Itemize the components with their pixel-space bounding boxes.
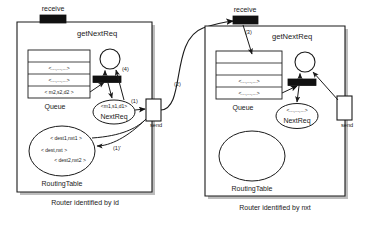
left-send-label: send [150, 123, 162, 129]
right-queue-row-3: <...,...,...> [238, 91, 259, 96]
diagram-canvas: receive getNextReq <...,...,...> <...,..… [0, 0, 365, 235]
left-transition-bar [93, 76, 121, 83]
left-queue-row-1: <...,...,...> [48, 66, 69, 71]
left-routing-entry-2: < dest,nxt > [41, 148, 67, 153]
left-receive-port[interactable] [40, 15, 66, 23]
left-getnextreq-place [100, 49, 120, 69]
left-send-port[interactable] [146, 99, 161, 121]
left-nextreq-token: <m1,s1,d1> [101, 104, 127, 109]
left-queue-label: Queue [44, 103, 65, 110]
left-receive-label: receive [42, 5, 65, 12]
left-queue-row-2: <...,...,...> [48, 78, 69, 83]
right-arc-label-3: (3) [245, 30, 252, 36]
left-getnextreq-label: getNextReq [77, 30, 117, 38]
right-routingtable-place [219, 131, 285, 181]
left-arc-label-1-prime: (1)' [113, 146, 121, 152]
right-getnextreq-label: getNextReq [272, 33, 312, 41]
left-routing-entry-1: < dest1,nxt1 > [50, 136, 82, 141]
right-send-label: send [341, 123, 353, 129]
right-queue-row-2: <...,...,...> [238, 79, 259, 84]
right-receive-port[interactable] [233, 16, 258, 24]
interpanel-arc-label-2: (2) [174, 82, 181, 88]
right-panel-caption: Router identified by nxt [239, 204, 311, 211]
right-nextreq-token: <...,...,...> [286, 108, 307, 113]
left-panel-caption: Router identified by id [51, 199, 119, 206]
left-arc-label-1: (1) [131, 99, 138, 105]
right-routingtable-label: RoutingTable [232, 185, 273, 192]
left-queue-row-3: < m2,s2,d2 > [44, 90, 73, 95]
left-arc-label-4: (4) [122, 67, 129, 73]
right-getnextreq-place [295, 52, 315, 72]
left-nextreq-label: NextReq [100, 113, 127, 120]
right-queue-label: Queue [232, 104, 253, 111]
right-transition-bar [288, 79, 316, 86]
right-send-port[interactable] [337, 96, 352, 120]
left-routing-entry-3: < dest2,nxt2 > [54, 158, 86, 163]
right-receive-label: receive [234, 6, 257, 13]
left-routingtable-label: RoutingTable [42, 180, 83, 187]
right-nextreq-label: NextReq [283, 117, 310, 124]
